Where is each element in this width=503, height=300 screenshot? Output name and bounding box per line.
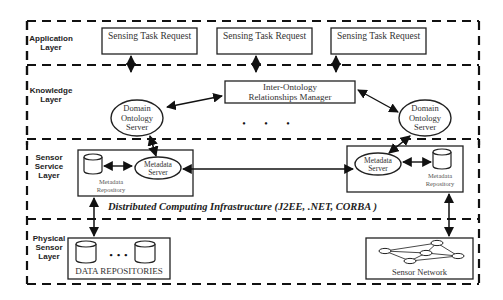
label-line: Sensor bbox=[29, 153, 69, 162]
label-line: Layer bbox=[28, 43, 74, 52]
data-repositories-ellipsis: • • • bbox=[104, 250, 134, 260]
text-line: Inter-Ontology bbox=[225, 82, 355, 92]
sensor-network-label: Sensor Network bbox=[366, 267, 473, 277]
inter-ontology-manager-label: Inter-Ontology Relationships Manager bbox=[225, 82, 355, 102]
text-line: Metadata bbox=[415, 172, 465, 180]
domain-ontology-server-left-label: Domain Ontology Server bbox=[111, 104, 163, 133]
text-line: Repository bbox=[415, 180, 465, 188]
right-metadata-repository-label: Metadata Repository bbox=[415, 172, 465, 188]
text-line: Metadata bbox=[86, 178, 136, 186]
sensing-task-request-3: Sensing Task Request bbox=[331, 31, 426, 41]
label-line: Layer bbox=[29, 252, 69, 261]
text-line: Relationships Manager bbox=[225, 92, 355, 102]
label-line: Service bbox=[29, 162, 69, 171]
text-line: Server bbox=[355, 165, 401, 173]
sensing-task-request-2: Sensing Task Request bbox=[217, 31, 312, 41]
left-metadata-repository-label: Metadata Repository bbox=[86, 178, 136, 194]
layer-label-physical-sensor: Physical Sensor Layer bbox=[29, 234, 69, 261]
layer-label-application: Application Layer bbox=[28, 34, 74, 52]
label-line: Layer bbox=[28, 95, 74, 104]
layer-label-sensor-service: Sensor Service Layer bbox=[29, 153, 69, 180]
layer-label-knowledge: Knowledge Layer bbox=[28, 86, 74, 104]
text-line: Server bbox=[399, 123, 451, 133]
label-line: Application bbox=[28, 34, 74, 43]
architecture-diagram bbox=[0, 0, 503, 300]
knowledge-ellipsis: • • • bbox=[240, 118, 300, 129]
label-line: Physical bbox=[29, 234, 69, 243]
label-line: Sensor bbox=[29, 243, 69, 252]
text-line: Server bbox=[111, 123, 163, 133]
data-repositories-label: DATA REPOSITORIES bbox=[68, 266, 170, 276]
right-metadata-server-label: Metadata Server bbox=[355, 157, 401, 172]
text-line: Server bbox=[135, 169, 181, 177]
sensing-task-request-1: Sensing Task Request bbox=[102, 31, 197, 41]
infrastructure-label: Distributed Computing Infrastructure (J2… bbox=[108, 201, 408, 212]
left-metadata-server-label: Metadata Server bbox=[135, 161, 181, 176]
text-line: Repository bbox=[86, 186, 136, 194]
domain-ontology-server-right-label: Domain Ontology Server bbox=[399, 104, 451, 133]
label-line: Layer bbox=[29, 171, 69, 180]
label-line: Knowledge bbox=[28, 86, 74, 95]
